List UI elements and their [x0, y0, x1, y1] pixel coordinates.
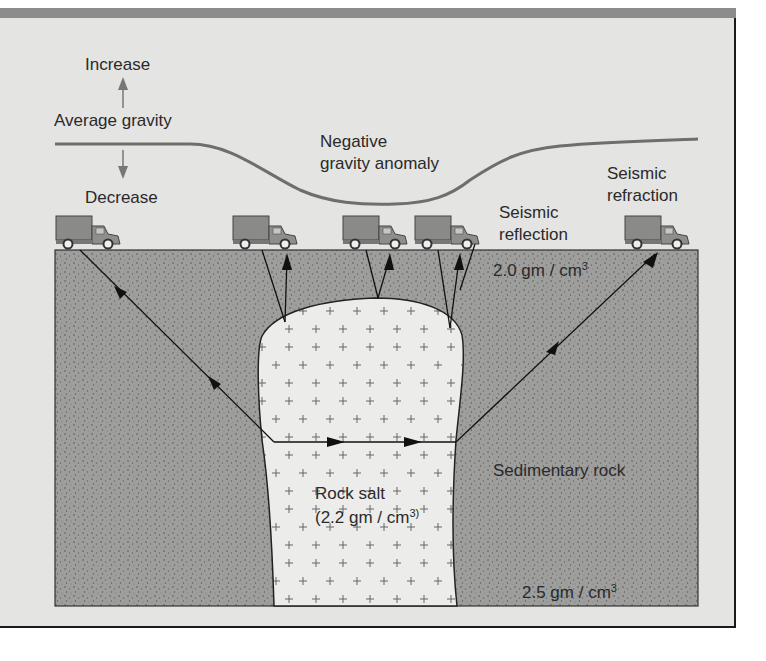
anomaly-label-line1: Negative	[320, 132, 387, 152]
truck-icon-4	[415, 216, 479, 249]
truck-icon-3	[343, 216, 407, 249]
refraction-label-line1: Seismic	[607, 164, 667, 184]
rock-salt-density-label: (2.2 gm / cm3)	[315, 508, 419, 528]
rock-salt-dome	[258, 298, 463, 606]
reflection-label-line1: Seismic	[499, 203, 559, 223]
anomaly-label-line2: gravity anomaly	[320, 154, 439, 174]
upper-density-label: 2.0 gm / cm3	[493, 261, 588, 281]
salt-dome-diagram	[0, 0, 766, 661]
increase-label: Increase	[85, 55, 150, 75]
sedimentary-rock-label: Sedimentary rock	[493, 461, 625, 481]
truck-icon-2	[233, 216, 297, 249]
truck-icon-1	[56, 216, 120, 249]
lower-density-label: 2.5 gm / cm3	[522, 583, 617, 603]
refraction-label-line2: refraction	[607, 186, 678, 206]
rock-salt-label: Rock salt	[315, 484, 385, 504]
truck-icon-5	[625, 216, 689, 249]
average-gravity-label: Average gravity	[54, 111, 172, 131]
decrease-label: Decrease	[85, 188, 158, 208]
reflection-label-line2: reflection	[499, 225, 568, 245]
